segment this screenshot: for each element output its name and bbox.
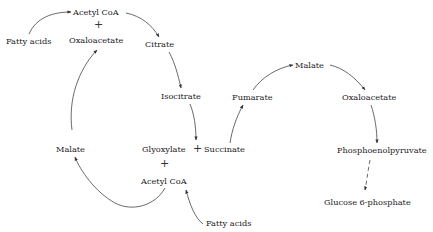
arrow-fumarate-to-malate [253, 65, 293, 90]
plus-sign-top: + [94, 19, 103, 30]
node-malate-right: Malate [295, 61, 324, 69]
node-fatty-acids-bottom: Fatty acids [206, 219, 251, 227]
plus-sign-bottom: + [160, 158, 169, 169]
arrow-fatty-acids-to-acetyl-coa-bottom [186, 190, 203, 224]
node-isocitrate: Isocitrate [161, 92, 201, 100]
node-succinate: Succinate [204, 145, 245, 153]
node-acetyl-coa-bottom: Acetyl CoA [141, 177, 187, 185]
node-citrate: Citrate [145, 40, 174, 48]
node-fumarate: Fumarate [232, 93, 273, 101]
arrow-oxaloacetate-to-pep [371, 105, 377, 143]
plus-sign-middle: + [193, 143, 202, 154]
node-acetyl-coa-top: Acetyl CoA [73, 8, 119, 16]
arrow-malate-to-oxaloacetate-right [330, 65, 365, 90]
arrow-fatty-acids-to-acetyl-coa [29, 12, 71, 34]
node-malate-left: Malate [56, 145, 85, 153]
arrow-citrate-to-isocitrate [169, 52, 181, 88]
node-phosphoenolpyruvate: Phosphoenolpyruvate [337, 146, 427, 154]
glyoxylate-cycle-diagram: Fatty acids Acetyl CoA + Oxaloacetate Ci… [0, 0, 433, 232]
arrow-malate-to-oxaloacetate [71, 50, 97, 130]
node-oxaloacetate-top: Oxaloacetate [69, 36, 123, 44]
arrow-isocitrate-to-glyoxylate-succinate [190, 104, 196, 140]
node-fatty-acids-top: Fatty acids [6, 37, 51, 45]
node-oxaloacetate-right: Oxaloacetate [342, 93, 396, 101]
arrow-pep-to-glucose-6-phosphate [365, 160, 370, 190]
node-glucose-6-phosphate: Glucose 6-phosphate [324, 198, 411, 206]
node-glyoxylate: Glyoxylate [142, 145, 186, 153]
arrow-succinate-to-fumarate [230, 105, 243, 143]
arrow-acetyl-coa-to-citrate [126, 13, 159, 37]
